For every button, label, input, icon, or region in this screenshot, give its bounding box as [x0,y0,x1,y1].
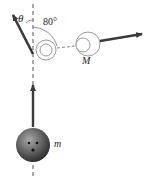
ball-dot-icon [31,148,34,151]
ball-dot-icon [36,142,39,145]
velocity-arrow-M [100,34,142,41]
connector-dashed [57,46,75,48]
label-M: M [81,55,91,66]
ball-dot-icon [28,142,31,145]
label-angle-80: 80° [43,16,57,27]
label-m: m [54,138,61,149]
pulley-inner-circle [40,44,52,56]
mass-M-inner-circle [76,38,90,52]
label-theta: θ [18,12,24,24]
physics-diagram: θ 80° M m [0,0,152,181]
angle-arc-theta [26,20,33,23]
mass-m-ball [16,128,50,162]
pulley-outer-circle [36,40,56,60]
